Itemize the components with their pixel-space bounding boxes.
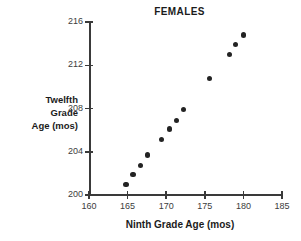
x-tick-label: 180 [228,201,258,211]
data-point [207,76,212,81]
y-tick-label-text: 212 [59,60,83,69]
x-axis-title: Ninth Grade Age (mos) [60,219,300,230]
data-point [241,32,246,37]
x-tick-mark [88,191,90,199]
scatter-chart-figure: FEMALES Twelfth Grade Age (mos) 20020420… [0,0,301,241]
data-point [174,118,179,123]
data-point [167,126,172,131]
y-tick-label: 200 [55,190,83,200]
data-point [130,172,135,177]
y-tick-label-text: 208 [59,104,83,113]
y-tick-label-text: 200 [59,190,83,199]
x-tick-mark [165,191,167,199]
y-tick-label-text: 204 [59,147,83,156]
x-tick-label: 170 [151,201,181,211]
x-tick-label: 165 [113,201,143,211]
y-tick-label: 204 [55,147,83,157]
data-point [159,137,164,142]
y-axis-title-line-3: Age (mos) [6,119,78,132]
y-tick-mark [85,151,93,153]
y-tick-mark [85,21,93,23]
y-tick-label-text: 216 [59,17,83,26]
y-tick-label: 216 [55,17,83,27]
data-point [145,152,150,157]
y-tick-mark [85,108,93,110]
y-tick-label: 212 [55,60,83,70]
y-tick-mark [85,65,93,67]
data-point [233,42,238,47]
data-point [138,163,143,168]
x-tick-mark [243,191,245,199]
x-tick-mark [127,191,129,199]
data-point [123,182,128,187]
x-tick-mark [204,191,206,199]
x-tick-label: 160 [74,201,104,211]
data-point [227,52,232,57]
x-axis-line [88,194,283,196]
y-tick-label: 208 [55,104,83,114]
data-point [181,107,186,112]
x-tick-label: 185 [267,201,297,211]
x-tick-label: 175 [190,201,220,211]
x-tick-mark [281,191,283,199]
chart-title: FEMALES [0,6,301,17]
